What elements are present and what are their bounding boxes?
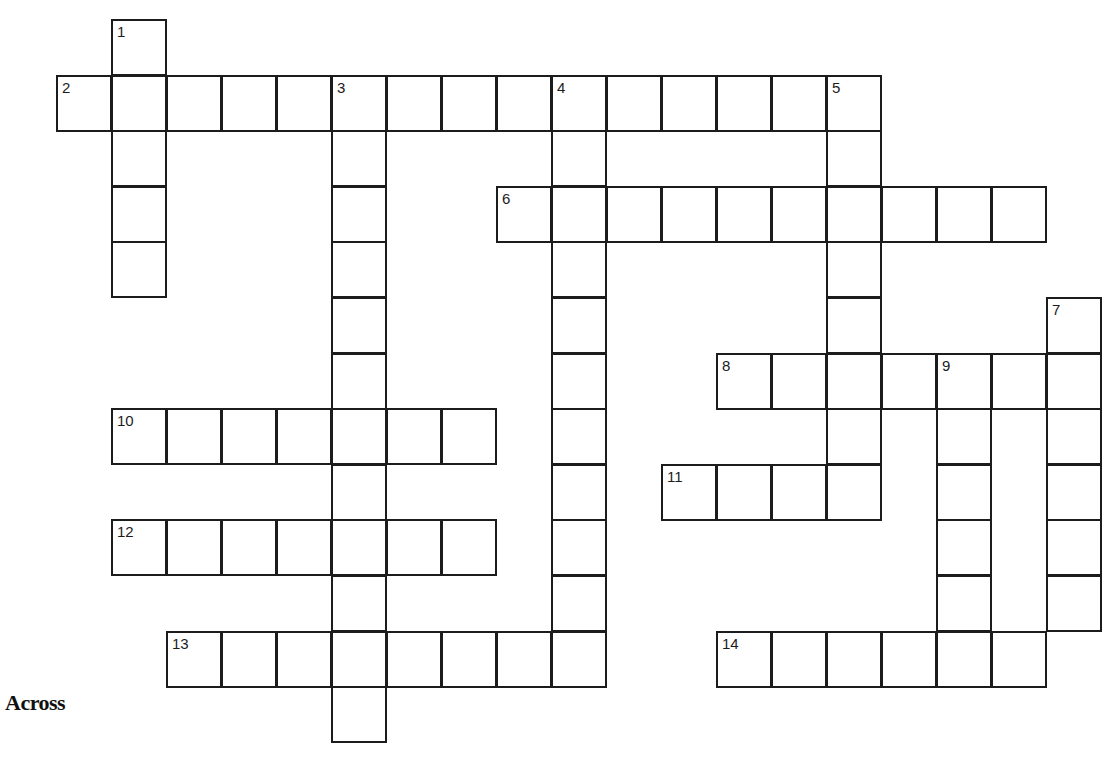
crossword-cell[interactable] xyxy=(606,75,662,132)
crossword-cell[interactable] xyxy=(111,241,167,298)
crossword-cell[interactable] xyxy=(441,519,497,576)
crossword-cell[interactable] xyxy=(111,186,167,243)
crossword-cell[interactable] xyxy=(606,186,662,243)
crossword-cell[interactable] xyxy=(551,186,607,243)
crossword-cell[interactable]: 6 xyxy=(496,186,552,243)
crossword-cell[interactable] xyxy=(936,408,992,465)
crossword-cell[interactable] xyxy=(166,519,222,576)
crossword-cell[interactable] xyxy=(386,408,442,465)
crossword-cell[interactable] xyxy=(716,464,772,521)
crossword-cell[interactable]: 4 xyxy=(551,75,607,132)
crossword-cell[interactable] xyxy=(826,186,882,243)
crossword-cell[interactable] xyxy=(936,519,992,576)
crossword-cell[interactable] xyxy=(936,186,992,243)
crossword-cell[interactable] xyxy=(826,130,882,187)
crossword-cell[interactable] xyxy=(1046,575,1102,632)
crossword-cell[interactable]: 13 xyxy=(166,631,222,688)
crossword-cell[interactable] xyxy=(826,353,882,410)
crossword-cell[interactable] xyxy=(331,130,387,187)
crossword-cell[interactable] xyxy=(166,408,222,465)
crossword-cell[interactable] xyxy=(771,464,827,521)
crossword-cell[interactable] xyxy=(881,631,937,688)
crossword-cell[interactable] xyxy=(386,631,442,688)
crossword-cell[interactable] xyxy=(551,130,607,187)
crossword-cell[interactable] xyxy=(826,408,882,465)
crossword-cell[interactable] xyxy=(331,297,387,354)
across-heading: Across xyxy=(5,690,65,716)
crossword-cell[interactable] xyxy=(386,519,442,576)
crossword-cell[interactable] xyxy=(276,408,332,465)
crossword-cell[interactable] xyxy=(441,408,497,465)
crossword-cell[interactable] xyxy=(551,519,607,576)
crossword-cell[interactable] xyxy=(551,408,607,465)
crossword-cell[interactable] xyxy=(276,519,332,576)
crossword-cell[interactable] xyxy=(991,353,1047,410)
crossword-cell[interactable] xyxy=(771,186,827,243)
crossword-cell[interactable] xyxy=(276,631,332,688)
crossword-cell[interactable] xyxy=(551,353,607,410)
crossword-cell[interactable] xyxy=(331,408,387,465)
crossword-cell[interactable] xyxy=(276,75,332,132)
crossword-cell[interactable] xyxy=(936,631,992,688)
crossword-cell[interactable] xyxy=(331,186,387,243)
crossword-cell[interactable] xyxy=(111,130,167,187)
crossword-cell[interactable] xyxy=(221,631,277,688)
crossword-cell[interactable] xyxy=(551,464,607,521)
crossword-cell[interactable] xyxy=(661,75,717,132)
crossword-cell[interactable] xyxy=(331,353,387,410)
crossword-cell[interactable] xyxy=(826,631,882,688)
crossword-cell[interactable] xyxy=(331,241,387,298)
crossword-cell[interactable] xyxy=(496,631,552,688)
crossword-cell[interactable] xyxy=(826,241,882,298)
crossword-cell[interactable] xyxy=(331,464,387,521)
crossword-cell[interactable]: 7 xyxy=(1046,297,1102,354)
crossword-cell[interactable] xyxy=(1046,408,1102,465)
crossword-cell[interactable] xyxy=(1046,464,1102,521)
crossword-cell[interactable] xyxy=(1046,519,1102,576)
crossword-cell[interactable] xyxy=(441,631,497,688)
crossword-cell[interactable]: 1 xyxy=(111,19,167,76)
crossword-cell[interactable] xyxy=(716,186,772,243)
crossword-cell[interactable] xyxy=(221,75,277,132)
crossword-cell[interactable] xyxy=(221,519,277,576)
clue-number: 1 xyxy=(117,24,125,39)
crossword-cell[interactable] xyxy=(496,75,552,132)
crossword-cell[interactable] xyxy=(936,464,992,521)
crossword-cell[interactable] xyxy=(661,186,717,243)
crossword-cell[interactable] xyxy=(551,297,607,354)
crossword-cell[interactable] xyxy=(551,631,607,688)
crossword-cell[interactable] xyxy=(331,519,387,576)
crossword-cell[interactable]: 12 xyxy=(111,519,167,576)
crossword-cell[interactable] xyxy=(771,75,827,132)
crossword-cell[interactable] xyxy=(551,241,607,298)
crossword-cell[interactable] xyxy=(826,464,882,521)
crossword-cell[interactable] xyxy=(771,353,827,410)
crossword-cell[interactable] xyxy=(331,686,387,743)
crossword-cell[interactable]: 10 xyxy=(111,408,167,465)
crossword-cell[interactable]: 8 xyxy=(716,353,772,410)
crossword-cell[interactable] xyxy=(221,408,277,465)
crossword-cell[interactable]: 9 xyxy=(936,353,992,410)
crossword-cell[interactable] xyxy=(716,75,772,132)
crossword-cell[interactable] xyxy=(881,186,937,243)
crossword-cell[interactable] xyxy=(826,297,882,354)
crossword-cell[interactable] xyxy=(441,75,497,132)
crossword-cell[interactable] xyxy=(386,75,442,132)
crossword-cell[interactable] xyxy=(991,631,1047,688)
crossword-cell[interactable] xyxy=(881,353,937,410)
crossword-cell[interactable] xyxy=(1046,353,1102,410)
crossword-cell[interactable] xyxy=(991,186,1047,243)
crossword-cell[interactable]: 2 xyxy=(56,75,112,132)
crossword-cell[interactable] xyxy=(551,575,607,632)
crossword-cell[interactable] xyxy=(331,631,387,688)
crossword-cell[interactable] xyxy=(331,575,387,632)
crossword-cell[interactable] xyxy=(936,575,992,632)
crossword-cell[interactable]: 3 xyxy=(331,75,387,132)
crossword-cell[interactable]: 5 xyxy=(826,75,882,132)
clue-number: 3 xyxy=(337,80,345,95)
crossword-cell[interactable] xyxy=(771,631,827,688)
crossword-cell[interactable]: 11 xyxy=(661,464,717,521)
crossword-cell[interactable]: 14 xyxy=(716,631,772,688)
crossword-cell[interactable] xyxy=(166,75,222,132)
crossword-cell[interactable] xyxy=(111,75,167,132)
